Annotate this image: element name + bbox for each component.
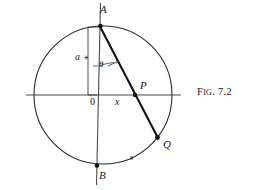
label-arc-s: s [130,154,133,162]
label-origin: 0 [90,97,95,107]
label-point-p: P [140,80,147,91]
point-marker-P [133,93,137,97]
radius-bracket [88,27,99,95]
figure-caption: FIG. 7.2 [197,86,232,97]
label-point-a: A [100,4,107,15]
figure-caption-smallcaps: IG [203,88,212,97]
point-marker-A [98,24,103,29]
figure-container: A B P Q 0 a x s θ FIG. 7.2 [0,0,256,190]
theta-label-pointer [108,61,119,66]
label-point-b: B [99,170,106,181]
label-angle-theta: θ [99,60,103,69]
point-marker-B [95,163,100,168]
vertical-axis [97,3,101,185]
radius-label-pointer [84,56,88,59]
point-marker-Q [155,135,160,140]
label-point-q: Q [163,139,171,150]
figure-caption-number: . 7.2 [212,86,232,97]
label-abscissa-x: x [115,97,119,107]
label-radius-a: a [75,52,80,62]
